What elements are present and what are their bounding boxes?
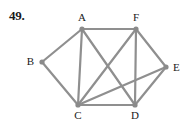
vertex-label-a: A: [78, 11, 86, 23]
graph-vertex-e: [163, 64, 168, 69]
figure-container: 49. ABCDEF: [0, 0, 185, 124]
graph-vertex-f: [133, 26, 138, 31]
graph-vertex-b: [39, 59, 44, 64]
vertex-label-c: C: [74, 109, 81, 121]
vertex-label-d: D: [131, 109, 139, 121]
vertex-label-b: B: [27, 55, 34, 67]
vertex-label-e: E: [173, 61, 180, 73]
graph-vertex-d: [132, 102, 137, 107]
graph-edge-b-c: [42, 62, 78, 105]
graph-edge-d-f: [135, 29, 136, 105]
graph-vertex-c: [75, 102, 80, 107]
graph-vertex-a: [79, 26, 84, 31]
vertex-label-f: F: [133, 11, 139, 23]
graph-edge-a-c: [78, 29, 82, 105]
edge-layer: [42, 29, 166, 105]
graph-edge-a-b: [42, 29, 82, 62]
vertex-layer: [39, 26, 168, 107]
graph-edge-f-e: [136, 29, 166, 67]
graph-diagram: ABCDEF: [0, 0, 185, 124]
